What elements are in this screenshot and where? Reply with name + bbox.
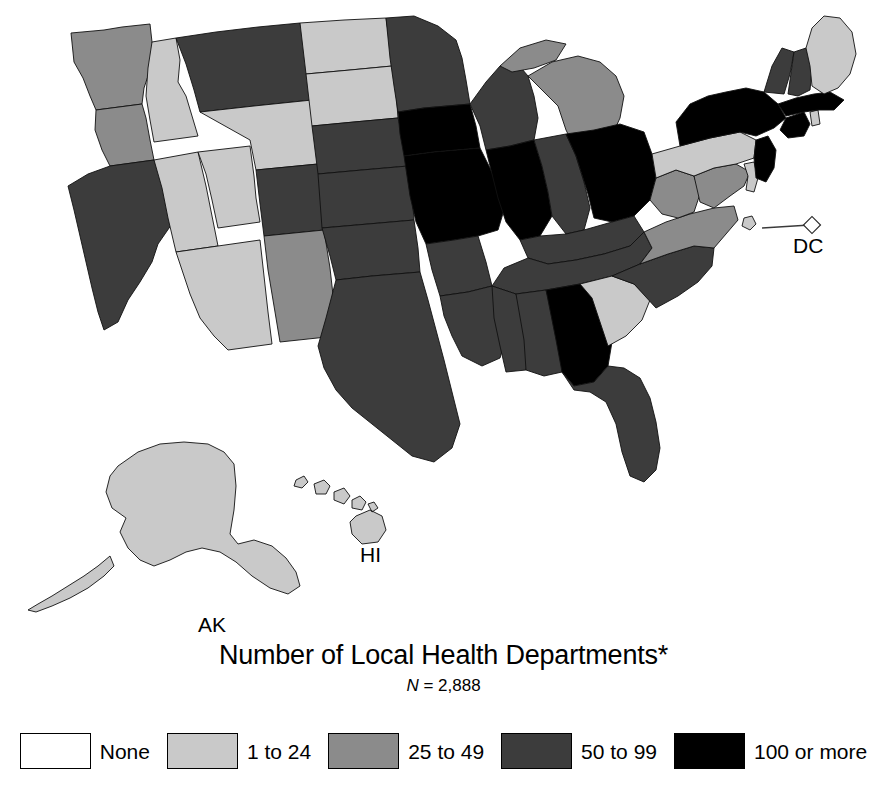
legend-label-none: None [100, 741, 150, 762]
legend-item-1-to-24[interactable]: 1 to 24 [167, 733, 311, 769]
state-OR[interactable] [95, 104, 154, 166]
us-map-container: AK HI DC [0, 0, 887, 640]
state-DC[interactable] [742, 216, 756, 230]
state-ME[interactable] [806, 16, 856, 94]
legend-item-50-to-99[interactable]: 50 to 99 [501, 733, 657, 769]
sample-size-symbol: N [406, 676, 418, 695]
state-SD[interactable] [306, 66, 398, 126]
state-AR[interactable] [426, 236, 492, 296]
chart-subtitle: N = 2,888 [0, 676, 887, 696]
chart-title: Number of Local Health Departments* [0, 641, 887, 670]
state-NE[interactable] [312, 118, 408, 174]
legend-swatch-50-to-99 [501, 733, 572, 769]
legend-swatch-none [20, 733, 91, 769]
state-MN[interactable] [386, 16, 470, 112]
state-HI[interactable] [294, 476, 386, 544]
state-KS[interactable] [318, 166, 414, 228]
legend-swatch-1-to-24 [167, 733, 238, 769]
state-AZ[interactable] [176, 240, 272, 350]
state-WI[interactable] [470, 62, 538, 150]
legend-item-100-or-more[interactable]: 100 or more [674, 733, 867, 769]
map-legend: None 1 to 24 25 to 49 50 to 99 100 or mo… [0, 733, 887, 769]
us-map-svg: AK HI DC [0, 0, 887, 640]
legend-item-25-to-49[interactable]: 25 to 49 [328, 733, 484, 769]
sample-size-equals: = [419, 676, 438, 695]
legend-label-1-to-24: 1 to 24 [247, 741, 311, 762]
state-WA[interactable] [71, 24, 156, 110]
state-ND[interactable] [300, 18, 392, 74]
inset-label-alaska: AK [198, 613, 226, 636]
state-CA[interactable] [68, 160, 176, 330]
dc-marker-icon [804, 217, 821, 234]
state-RI[interactable] [810, 110, 820, 126]
state-CO[interactable] [256, 164, 324, 236]
state-AK[interactable] [28, 442, 300, 612]
choropleth-figure: AK HI DC Number of Local Health Departme… [0, 0, 887, 795]
state-MT[interactable] [176, 23, 312, 112]
state-OK[interactable] [322, 220, 420, 280]
legend-item-none[interactable]: None [20, 733, 150, 769]
inset-label-hawaii: HI [360, 543, 381, 566]
legend-label-25-to-49: 25 to 49 [408, 741, 484, 762]
legend-swatch-100-or-more [674, 733, 745, 769]
legend-swatch-25-to-49 [328, 733, 399, 769]
state-TX[interactable] [318, 272, 460, 462]
inset-label-dc: DC [793, 234, 823, 257]
sample-size-value: 2,888 [438, 676, 481, 695]
figure-caption: Number of Local Health Departments* N = … [0, 641, 887, 696]
state-IA[interactable] [398, 104, 480, 156]
legend-label-100-or-more: 100 or more [754, 741, 867, 762]
legend-label-50-to-99: 50 to 99 [581, 741, 657, 762]
dc-leader-line [762, 225, 810, 228]
state-NJ[interactable] [754, 136, 776, 182]
